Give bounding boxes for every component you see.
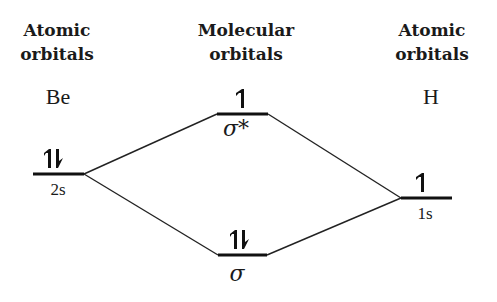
atom-h: H (423, 84, 439, 109)
electron-up-arrow-icon (236, 89, 244, 108)
mo-diagram: Atomic orbitals Molecular orbitals Atomi… (0, 0, 497, 302)
center-header-line1: Molecular (198, 20, 296, 40)
level-h-1s: 1s (401, 173, 452, 223)
electron-up-arrow-icon (230, 230, 237, 249)
level-label: 2s (50, 180, 65, 199)
right-header-line1: Atomic (398, 20, 466, 40)
electron-down-arrow-icon (56, 149, 63, 168)
level-sigma: σ (218, 230, 267, 286)
connector-be-sigma (84, 174, 218, 255)
connector-sigma-h (267, 198, 401, 255)
left-header-line1: Atomic (23, 20, 91, 40)
right-header-line2: orbitals (395, 44, 469, 64)
left-header-line2: orbitals (20, 44, 94, 64)
center-header-line2: orbitals (209, 44, 283, 64)
level-label: σ (229, 261, 245, 286)
connector-be-sigma-star (84, 114, 217, 174)
electron-down-arrow-icon (242, 230, 249, 249)
level-sigma-star: σ* (217, 89, 268, 141)
electron-up-arrow-icon (416, 173, 424, 192)
level-be-2s: 2s (33, 149, 84, 199)
atom-be: Be (46, 84, 70, 109)
electron-up-arrow-icon (44, 149, 51, 168)
level-label: 1s (417, 204, 432, 223)
level-label: σ* (223, 116, 249, 141)
connector-sigma-star-h (268, 114, 401, 198)
